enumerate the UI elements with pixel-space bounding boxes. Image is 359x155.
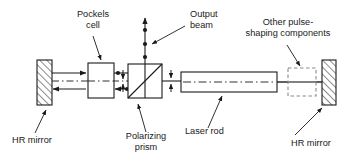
leader-pockels-cell bbox=[93, 36, 101, 60]
polarization-dot-1 bbox=[116, 71, 120, 75]
output-polarization-dot-1 bbox=[143, 28, 147, 32]
hr-mirror-right-body bbox=[322, 60, 336, 105]
hr-mirror-left-label: HR mirror bbox=[12, 135, 52, 145]
optical-schematic: Pockels cell Output beam Other pulse- sh… bbox=[0, 0, 359, 155]
output-polarization-dot-2 bbox=[143, 42, 147, 46]
output-beam-label-line2: beam bbox=[190, 20, 213, 30]
leader-hr-mirror-left bbox=[35, 110, 46, 133]
beam-group-left bbox=[52, 73, 88, 89]
pockels-cell-label-line1: Pockels bbox=[77, 9, 110, 19]
diagram-canvas: Pockels cell Output beam Other pulse- sh… bbox=[0, 0, 359, 155]
output-polarization-dot-3 bbox=[143, 55, 147, 59]
leader-laser-rod bbox=[208, 96, 222, 128]
laser-rod bbox=[181, 72, 277, 92]
other-components-label-line2: shaping components bbox=[246, 28, 331, 38]
beam-group-right-of-prism bbox=[162, 70, 181, 92]
pockels-cell-body bbox=[88, 63, 114, 98]
other-components-label-line1: Other pulse- bbox=[263, 17, 314, 27]
hr-mirror-right-label: HR mirror bbox=[291, 138, 331, 148]
polarizing-prism-label-line2: prism bbox=[135, 142, 158, 152]
hr-mirror-left-body bbox=[37, 60, 52, 105]
leader-other-components bbox=[287, 45, 300, 66]
laser-rod-label: Laser rod bbox=[185, 126, 224, 136]
polarizing-prism-label-line1: Polarizing bbox=[126, 131, 166, 141]
leader-polarizing-prism bbox=[138, 104, 146, 132]
output-beam-label-line1: Output bbox=[190, 9, 218, 19]
pockels-cell-label-line2: cell bbox=[86, 20, 100, 30]
leader-hr-mirror-right bbox=[295, 108, 322, 135]
leader-output-beam bbox=[152, 26, 185, 44]
hr-mirror-right bbox=[322, 60, 336, 105]
pockels-cell bbox=[88, 63, 114, 98]
hr-mirror-left bbox=[37, 60, 52, 105]
